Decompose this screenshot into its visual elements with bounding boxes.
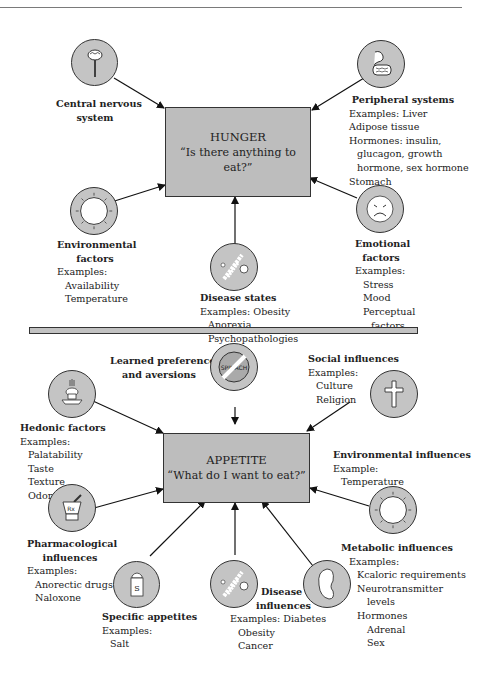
emotional-factors-node (356, 185, 404, 233)
sad-face-icon (365, 194, 395, 224)
svg-text:Rx: Rx (67, 505, 75, 512)
appetite-question: “What do I want to eat?” (167, 468, 305, 483)
metabolic-influences-label: Metabolic influences Examples: Kcaloric … (341, 541, 466, 650)
environmental-influences-node (369, 486, 417, 534)
kidney-icon (315, 567, 339, 601)
central-nervous-system-label: Central nervous system (56, 97, 134, 124)
pharmacological-influences-node: Rx (48, 484, 96, 532)
environmental-influences-label: Environmental influences Example: Temper… (333, 448, 471, 489)
environmental-factors-label: Environmental factors Examples: Availabi… (57, 238, 133, 306)
disease-states-node (210, 243, 258, 291)
central-nervous-system-node (71, 39, 118, 86)
thermometer-dial-icon (71, 187, 117, 235)
learned-preferences-node: SPINACH (210, 343, 258, 391)
mortar-pestle-icon: Rx (57, 492, 87, 524)
food-dish-icon (57, 378, 87, 410)
hunger-question: “Is there anything to eat?” (166, 145, 310, 175)
hunger-box: HUNGER “Is there anything to eat?” (165, 107, 311, 197)
brain-icon (83, 48, 107, 78)
hunger-title: HUNGER (210, 130, 266, 145)
peripheral-systems-label: Peripheral systems Examples: Liver Adipo… (349, 93, 469, 188)
no-spinach-icon: SPINACH (216, 349, 252, 385)
specific-appetites-label: Specific appetites Examples: Salt (102, 610, 197, 651)
cross-icon (382, 379, 406, 409)
thermometer-dial-icon (370, 486, 416, 534)
emotional-factors-label: Emotional factors Examples: Stress Mood … (355, 237, 415, 332)
pharmacological-influences-label: Pharmacological influences Examples: Ano… (27, 537, 113, 605)
environmental-factors-node (70, 187, 118, 235)
section-divider (29, 327, 418, 334)
svg-text:S: S (134, 584, 139, 593)
peripheral-systems-node (357, 40, 405, 88)
salt-shaker-icon: S (126, 570, 148, 600)
hedonic-factors-node (48, 370, 96, 418)
specific-appetites-node: S (113, 561, 160, 608)
digestive-system-icon (367, 49, 395, 79)
disease-states-label: Disease states Examples: Obesity Anorexi… (200, 291, 298, 345)
social-influences-node (370, 370, 418, 418)
learned-preferences-label: Learned preferences and aversions (110, 354, 208, 381)
appetite-title: APPETITE (206, 453, 266, 468)
microbe-icon (216, 249, 252, 285)
appetite-box: APPETITE “What do I want to eat?” (163, 433, 310, 503)
